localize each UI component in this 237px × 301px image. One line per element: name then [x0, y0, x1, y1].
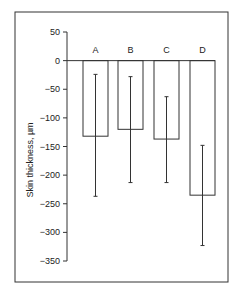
category-label: B	[127, 45, 133, 55]
chart: Skin thickness, µm 500−50−100−150−200−25…	[0, 0, 237, 301]
y-tick-label: −200	[40, 170, 60, 180]
y-tick-label: −300	[40, 227, 60, 237]
y-tick-label: 50	[50, 27, 60, 37]
category-label: A	[92, 45, 98, 55]
category-label: C	[163, 45, 170, 55]
category-label: D	[199, 45, 206, 55]
y-tick-label: −100	[40, 113, 60, 123]
y-tick-label: −50	[45, 84, 60, 94]
y-tick-label: −150	[40, 142, 60, 152]
y-tick-label: 0	[55, 56, 60, 66]
y-tick-label: −250	[40, 199, 60, 209]
y-axis-label: Skin thickness, µm	[25, 122, 35, 197]
y-tick-label: −350	[40, 256, 60, 266]
